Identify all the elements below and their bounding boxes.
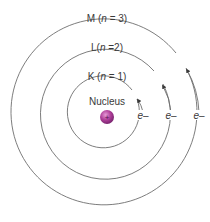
electron-label-k: e–	[137, 110, 149, 121]
nucleus-label: Nucleus	[89, 96, 125, 107]
electron-label-m: e–	[193, 110, 205, 121]
shell-label-k: K (n = 1)	[88, 71, 127, 82]
bohr-model-diagram: M (n = 3) L(n =2) K (n = 1) Nucleus + e–…	[0, 0, 210, 222]
nucleus-charge: +	[105, 113, 110, 122]
electron-label-l: e–	[165, 110, 177, 121]
shell-label-l: L(n =2)	[91, 42, 123, 53]
shell-label-m: M (n = 3)	[87, 13, 127, 24]
